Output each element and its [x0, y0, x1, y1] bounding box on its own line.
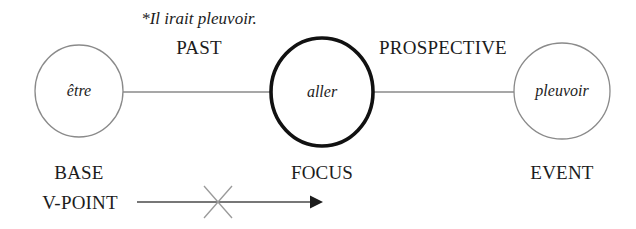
viewpoint-label: V-POINT — [42, 193, 118, 212]
node-label-event: pleuvoir — [535, 83, 588, 99]
role-label-event: EVENT — [530, 163, 593, 182]
relation-label-prospective: PROSPECTIVE — [379, 38, 507, 57]
node-label-focus: aller — [307, 84, 337, 100]
role-label-base: BASE — [54, 163, 103, 182]
node-label-base: être — [67, 83, 91, 99]
relation-label-past: PAST — [176, 38, 222, 57]
linguistics-diagram: *Il irait pleuvoir. PAST PROSPECTIVE êtr… — [0, 0, 636, 229]
example-sentence: *Il irait pleuvoir. — [141, 10, 257, 27]
role-label-focus: FOCUS — [291, 163, 353, 182]
viewpoint-arrow-head — [310, 196, 323, 209]
